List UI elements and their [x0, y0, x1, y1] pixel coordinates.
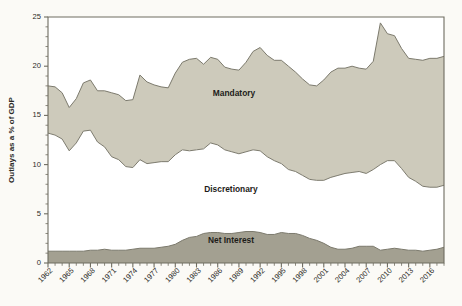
series-label-mandatory: Mandatory — [213, 88, 256, 98]
series-label-net-interest: Net Interest — [208, 235, 254, 245]
y-tick-label: 5 — [37, 209, 41, 218]
y-tick-label: 0 — [37, 258, 41, 267]
chart-figure: 0510152025 19621965196819711974197719801… — [0, 0, 462, 306]
series-label-discretionary: Discretionary — [204, 184, 258, 194]
y-axis-title: Outlays as a % of GDP — [7, 96, 16, 182]
y-tick-label: 25 — [33, 12, 41, 21]
stacked-area-chart: 0510152025 19621965196819711974197719801… — [0, 0, 462, 306]
y-tick-label: 10 — [33, 160, 41, 169]
y-tick-label: 20 — [33, 61, 41, 70]
y-tick-label: 15 — [33, 110, 41, 119]
